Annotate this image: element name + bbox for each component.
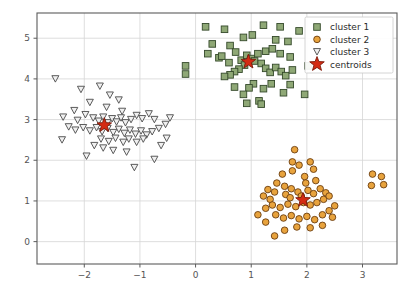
marker-square	[260, 22, 267, 29]
marker-circle	[378, 173, 385, 180]
marker-circle	[307, 202, 314, 209]
marker-circle	[285, 201, 292, 208]
marker-circle	[302, 180, 309, 187]
marker-square	[285, 38, 292, 45]
marker-square	[182, 63, 189, 70]
marker-circle	[380, 181, 387, 188]
marker-square	[221, 73, 228, 80]
marker-circle	[326, 193, 333, 200]
x-tick-label: −2	[78, 270, 91, 280]
marker-circle	[274, 180, 281, 187]
marker-circle	[289, 168, 296, 175]
marker-circle	[296, 216, 303, 223]
marker-circle	[262, 205, 269, 212]
chart-canvas: −2−10123012345 cluster 1cluster 2cluster…	[0, 0, 414, 293]
marker-circle	[311, 216, 318, 223]
marker-square	[232, 49, 239, 56]
marker-circle	[280, 215, 287, 222]
marker-square	[240, 91, 247, 98]
marker-square	[226, 59, 233, 66]
legend-label: cluster 3	[330, 47, 369, 57]
marker-circle	[304, 213, 311, 220]
marker-circle	[319, 211, 326, 218]
marker-circle	[294, 224, 301, 231]
marker-square	[240, 34, 247, 41]
marker-circle	[265, 186, 272, 193]
marker-square	[260, 85, 267, 92]
marker-square	[243, 100, 250, 107]
marker-circle	[269, 202, 276, 209]
scatter-plot-figure: −2−10123012345 cluster 1cluster 2cluster…	[0, 0, 414, 293]
marker-square	[268, 80, 275, 87]
marker-square	[249, 32, 256, 39]
y-tick-label: 5	[24, 33, 30, 43]
marker-circle	[319, 222, 326, 229]
marker-square	[287, 54, 294, 61]
marker-square	[287, 81, 294, 88]
marker-circle	[326, 207, 333, 214]
marker-square	[280, 89, 287, 96]
marker-square	[269, 45, 276, 52]
marker-square	[258, 101, 265, 108]
marker-square	[255, 50, 262, 57]
marker-circle	[301, 173, 308, 180]
marker-circle	[260, 193, 267, 200]
marker-circle	[312, 177, 319, 184]
marker-circle	[369, 171, 376, 178]
marker-circle	[288, 212, 295, 219]
x-tick-label: −1	[133, 270, 146, 280]
marker-circle	[288, 185, 295, 192]
marker-square	[301, 91, 308, 98]
marker-circle	[272, 211, 279, 218]
marker-square	[227, 42, 234, 49]
marker-circle	[310, 166, 317, 173]
marker-square	[289, 67, 296, 74]
y-tick-label: 0	[24, 237, 30, 247]
legend-label: cluster 2	[330, 35, 369, 45]
x-tick-label: 0	[193, 270, 199, 280]
x-tick-label: 1	[248, 270, 254, 280]
y-tick-label: 2	[24, 155, 30, 165]
marker-square	[209, 41, 216, 48]
marker-circle	[289, 159, 296, 166]
marker-circle	[287, 194, 294, 201]
marker-square	[231, 84, 238, 91]
marker-circle	[262, 219, 269, 226]
marker-circle	[291, 146, 298, 153]
marker-square	[262, 48, 269, 55]
marker-circle	[307, 224, 314, 231]
marker-circle	[368, 182, 375, 189]
x-tick-label: 3	[360, 270, 366, 280]
marker-circle	[307, 159, 314, 166]
marker-square	[314, 24, 321, 31]
marker-circle	[271, 189, 278, 196]
marker-circle	[296, 162, 303, 169]
marker-circle	[279, 171, 286, 178]
marker-circle	[277, 204, 284, 211]
marker-square	[221, 26, 228, 33]
marker-circle	[331, 203, 338, 210]
marker-square	[246, 85, 253, 92]
y-tick-label: 1	[24, 196, 30, 206]
marker-square	[182, 71, 189, 78]
marker-square	[277, 24, 284, 31]
y-tick-label: 4	[24, 74, 30, 84]
x-tick-label: 2	[304, 270, 310, 280]
marker-square	[202, 24, 209, 31]
marker-circle	[329, 214, 336, 221]
marker-circle	[271, 233, 278, 240]
marker-circle	[310, 190, 317, 197]
marker-square	[218, 53, 225, 60]
marker-square	[296, 28, 303, 35]
marker-circle	[281, 227, 288, 234]
legend-label: cluster 1	[330, 22, 369, 32]
marker-circle	[281, 183, 288, 190]
marker-square	[272, 37, 279, 44]
marker-circle	[314, 199, 321, 206]
marker-circle	[314, 36, 321, 43]
marker-square	[282, 72, 289, 79]
chart-legend[interactable]: cluster 1cluster 2cluster 3centroids	[305, 17, 393, 73]
legend-label: centroids	[330, 60, 372, 70]
marker-square	[205, 50, 212, 57]
marker-square	[277, 50, 284, 57]
